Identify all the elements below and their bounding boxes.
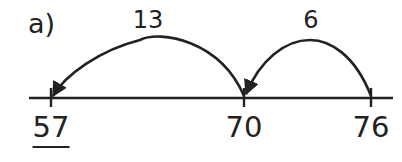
part-label: a) (28, 10, 55, 37)
jump-arc-6 (246, 40, 371, 96)
jump-label-13: 13 (133, 8, 164, 32)
jump-arc-13 (53, 37, 244, 96)
number-line-diagram: a) 13 6 57 70 76 (0, 0, 402, 162)
tick-label-70: 70 (226, 113, 263, 142)
tick-label-76: 76 (353, 113, 390, 142)
tick-label-57: 57 (33, 113, 70, 148)
jump-label-6: 6 (303, 8, 318, 32)
